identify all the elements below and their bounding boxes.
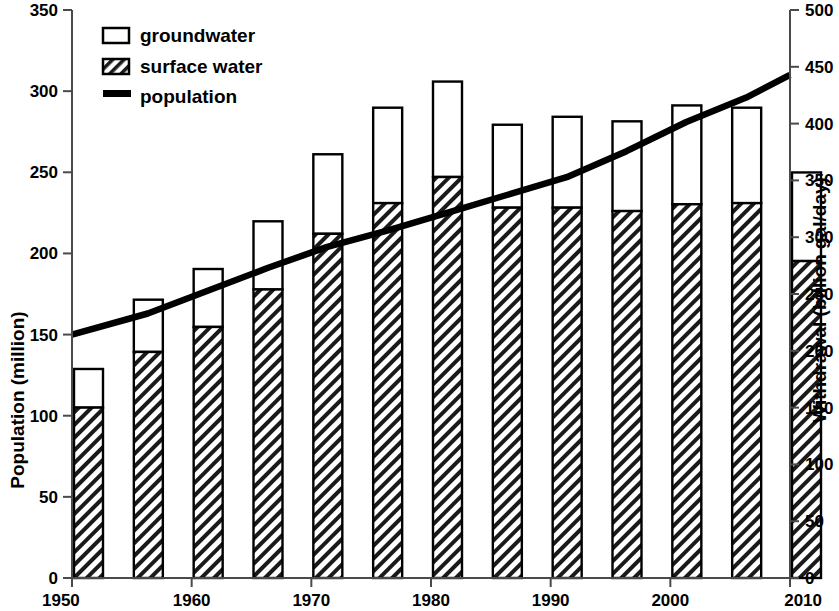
x-axis-tick-label: 1960 <box>173 591 211 610</box>
bar-segment-groundwater <box>74 369 103 408</box>
left-axis-tick-label: 350 <box>30 1 58 20</box>
legend-swatch-population <box>103 90 131 97</box>
bar-group <box>134 300 163 578</box>
left-axis-tick-label: 300 <box>30 82 58 101</box>
bar-segment-groundwater <box>732 108 761 203</box>
left-axis-tick-label: 0 <box>49 569 58 588</box>
bar-group <box>74 369 103 578</box>
bar-segment-groundwater <box>553 117 582 208</box>
x-axis-tick-label: 1990 <box>532 591 570 610</box>
bar-segment-surface-water <box>313 234 342 578</box>
bar-segment-surface-water <box>373 203 402 578</box>
bar-segment-surface-water <box>672 204 701 578</box>
bar-segment-groundwater <box>194 269 223 327</box>
bar-segment-surface-water <box>433 177 462 578</box>
bar-segment-surface-water <box>74 408 103 578</box>
bar-group <box>553 117 582 578</box>
bar-group <box>433 82 462 578</box>
bar-segment-groundwater <box>613 121 642 211</box>
chart-figure: 050100150200250300350 050100150200250300… <box>0 0 839 611</box>
bar-segment-surface-water <box>553 208 582 578</box>
x-axis-tick-label: 1950 <box>42 591 80 610</box>
bar-segment-groundwater <box>373 108 402 203</box>
left-axis-tick-label: 150 <box>30 326 58 345</box>
legend-label-surface-water: surface water <box>140 56 263 77</box>
right-axis-tick-label: 100 <box>805 455 833 474</box>
left-axis-tick-label: 50 <box>39 488 58 507</box>
left-axis-title: Population (million) <box>7 311 28 488</box>
bar-segment-surface-water <box>732 203 761 578</box>
bar-segment-surface-water <box>134 352 163 578</box>
legend-label-groundwater: groundwater <box>140 25 256 46</box>
right-axis-tick-label: 50 <box>805 512 824 531</box>
right-axis-tick-label: 450 <box>805 58 833 77</box>
left-axis-tick-label: 250 <box>30 163 58 182</box>
bar-segment-surface-water <box>194 327 223 578</box>
bar-group <box>373 108 402 578</box>
legend-swatch-surface-water <box>103 59 129 74</box>
right-axis-tick-label: 400 <box>805 115 833 134</box>
bar-segment-groundwater <box>254 221 283 289</box>
left-axis-tick-label: 200 <box>30 244 58 263</box>
x-axis-tick-label: 1970 <box>292 591 330 610</box>
x-axis-tick-label: 2010 <box>784 591 822 610</box>
combination-bar-line-chart: 050100150200250300350 050100150200250300… <box>0 0 839 611</box>
legend-swatch-groundwater <box>103 28 129 43</box>
bar-segment-surface-water <box>493 208 522 578</box>
bar-group <box>732 108 761 578</box>
bar-segment-surface-water <box>613 211 642 578</box>
bar-group <box>313 154 342 578</box>
x-axis-tick-label: 2000 <box>651 591 689 610</box>
right-axis-tick-label: 0 <box>805 569 814 588</box>
bar-group <box>613 121 642 578</box>
bar-segment-groundwater <box>433 82 462 177</box>
bar-group <box>672 105 701 578</box>
bar-segment-groundwater <box>313 154 342 234</box>
legend-label-population: population <box>140 86 237 107</box>
right-axis-title: Withdrawal (billion gal/day) <box>809 177 830 423</box>
x-axis-tick-label: 1980 <box>412 591 450 610</box>
bar-group <box>194 269 223 578</box>
bar-segment-surface-water <box>254 289 283 578</box>
left-axis-tick-label: 100 <box>30 407 58 426</box>
right-axis-tick-label: 500 <box>805 1 833 20</box>
